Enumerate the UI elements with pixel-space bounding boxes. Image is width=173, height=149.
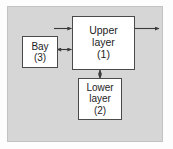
node-lower-layer-index: (2) [94, 105, 106, 116]
node-lower-layer-line2: layer [89, 93, 111, 104]
node-bay[interactable]: Bay (3) [22, 36, 58, 68]
diagram-figure: Upper layer (1) Bay (3) Lower layer (2) [0, 0, 173, 149]
node-upper-layer[interactable]: Upper layer (1) [72, 16, 135, 70]
node-lower-layer[interactable]: Lower layer (2) [78, 78, 122, 120]
node-upper-layer-index: (1) [97, 49, 110, 61]
node-bay-line1: Bay [31, 41, 48, 52]
node-bay-index: (3) [34, 52, 46, 63]
node-lower-layer-line1: Lower [86, 82, 113, 93]
